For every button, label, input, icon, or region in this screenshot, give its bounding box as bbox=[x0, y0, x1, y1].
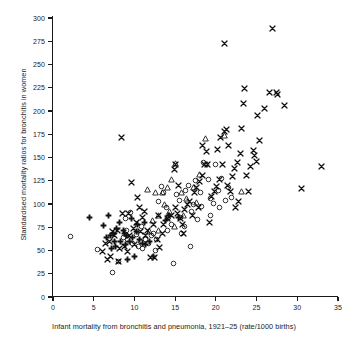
data-point-open-circle bbox=[67, 233, 74, 240]
y-tick bbox=[48, 41, 52, 42]
x-axis-title: Infant mortality from bronchitis and pne… bbox=[0, 322, 348, 331]
x-tick-label: 15 bbox=[165, 304, 185, 311]
data-point-open-circle bbox=[94, 246, 101, 253]
data-point-open-triangle bbox=[146, 228, 153, 235]
data-point-open-circle bbox=[188, 208, 195, 215]
data-point-open-circle bbox=[225, 184, 232, 191]
y-tick bbox=[48, 64, 52, 65]
y-tick-label: 275 bbox=[19, 38, 45, 45]
data-point-open-circle bbox=[170, 260, 177, 267]
x-tick bbox=[337, 297, 338, 301]
data-point-cross bbox=[124, 248, 131, 255]
x-tick-label: 0 bbox=[43, 304, 63, 311]
data-point-open-triangle bbox=[196, 171, 203, 178]
data-point-open-triangle bbox=[168, 176, 175, 183]
data-point-cross bbox=[214, 146, 221, 153]
y-tick bbox=[48, 87, 52, 88]
data-point-cross bbox=[128, 179, 135, 186]
data-point-open-circle bbox=[115, 258, 122, 265]
y-tick bbox=[48, 110, 52, 111]
y-tick-label: 0 bbox=[19, 294, 45, 301]
data-point-filled-plus bbox=[150, 253, 157, 260]
data-point-open-circle bbox=[218, 175, 225, 182]
data-point-cross bbox=[234, 159, 241, 166]
x-tick bbox=[175, 297, 176, 301]
data-point-cross bbox=[281, 102, 288, 109]
data-point-filled-plus bbox=[141, 219, 148, 226]
data-point-open-circle bbox=[215, 187, 222, 194]
data-point-cross bbox=[256, 137, 263, 144]
x-tick-label: 35 bbox=[328, 304, 348, 311]
x-tick bbox=[93, 297, 94, 301]
y-tick-label: 50 bbox=[19, 247, 45, 254]
data-point-open-circle bbox=[194, 216, 201, 223]
data-point-open-circle bbox=[181, 223, 188, 230]
y-tick bbox=[48, 227, 52, 228]
data-point-filled-plus bbox=[146, 238, 153, 245]
y-tick-label: 300 bbox=[19, 15, 45, 22]
x-tick bbox=[256, 297, 257, 301]
data-point-filled-plus bbox=[86, 214, 93, 221]
data-point-cross bbox=[237, 150, 244, 157]
data-point-cross bbox=[206, 219, 213, 226]
data-point-open-triangle bbox=[221, 132, 228, 139]
data-point-open-triangle bbox=[202, 135, 209, 142]
y-tick bbox=[48, 273, 52, 274]
data-point-open-triangle bbox=[238, 188, 245, 195]
data-point-filled-plus bbox=[111, 238, 118, 245]
data-point-open-triangle bbox=[193, 199, 200, 206]
data-point-cross bbox=[254, 112, 261, 119]
data-point-open-triangle bbox=[172, 160, 179, 167]
data-point-cross bbox=[221, 40, 228, 47]
data-point-filled-plus bbox=[162, 217, 169, 224]
x-tick bbox=[52, 297, 53, 301]
data-point-open-circle bbox=[197, 189, 204, 196]
data-point-filled-plus bbox=[105, 212, 112, 219]
data-point-cross bbox=[238, 125, 245, 132]
data-point-open-triangle bbox=[183, 195, 190, 202]
data-point-open-circle bbox=[153, 236, 160, 243]
data-point-filled-plus bbox=[108, 245, 115, 252]
data-point-cross bbox=[134, 194, 141, 201]
data-point-cross bbox=[298, 185, 305, 192]
y-tick bbox=[48, 203, 52, 204]
data-point-open-circle bbox=[205, 176, 212, 183]
x-tick-label: 10 bbox=[124, 304, 144, 311]
data-point-filled-plus bbox=[133, 228, 140, 235]
data-point-open-circle bbox=[176, 197, 183, 204]
data-point-open-triangle bbox=[171, 223, 178, 230]
data-point-cross bbox=[245, 188, 252, 195]
data-point-open-triangle bbox=[155, 227, 162, 234]
data-point-cross bbox=[253, 158, 260, 165]
data-point-cross bbox=[219, 161, 226, 168]
data-point-open-triangle bbox=[149, 217, 156, 224]
data-point-open-circle bbox=[216, 204, 223, 211]
y-tick bbox=[48, 250, 52, 251]
y-tick bbox=[48, 157, 52, 158]
data-point-open-circle bbox=[207, 212, 214, 219]
scatter-plot-figure: Infant mortality from bronchitis and pne… bbox=[0, 0, 348, 346]
data-point-cross bbox=[231, 165, 238, 172]
y-tick-label: 75 bbox=[19, 224, 45, 231]
data-point-open-circle bbox=[187, 243, 194, 250]
y-tick-label: 150 bbox=[19, 154, 45, 161]
data-point-cross bbox=[225, 142, 232, 149]
x-tick-label: 20 bbox=[206, 304, 226, 311]
data-point-filled-plus bbox=[121, 230, 128, 237]
data-point-open-circle bbox=[212, 161, 219, 168]
data-point-cross bbox=[261, 105, 268, 112]
y-tick bbox=[48, 17, 52, 18]
data-point-open-triangle bbox=[164, 184, 171, 191]
data-point-filled-plus bbox=[100, 222, 107, 229]
data-point-cross bbox=[229, 173, 236, 180]
data-point-open-circle bbox=[109, 269, 116, 276]
data-point-open-circle bbox=[228, 194, 235, 201]
data-point-open-circle bbox=[178, 230, 185, 237]
data-point-open-triangle bbox=[190, 184, 197, 191]
data-point-filled-plus bbox=[116, 219, 123, 226]
y-tick bbox=[48, 296, 52, 297]
data-point-cross bbox=[232, 204, 239, 211]
y-tick-label: 175 bbox=[19, 131, 45, 138]
x-tick bbox=[297, 297, 298, 301]
data-point-cross bbox=[274, 91, 281, 98]
